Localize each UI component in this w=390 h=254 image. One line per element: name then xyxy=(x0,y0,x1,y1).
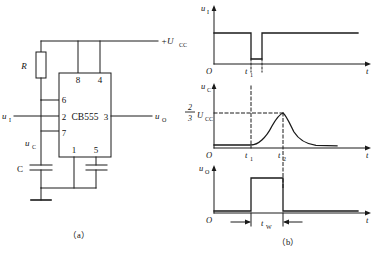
output-label-text: u xyxy=(155,111,160,121)
pulse-width-label: t W xyxy=(261,218,272,230)
subcaption-b: （b） xyxy=(277,237,299,247)
threshold-numerator: 2 xyxy=(188,103,192,112)
circuit-and-waveform-figure: R C +U CC u I u O u C CB555 8 4 6 2 7 3 … xyxy=(0,0,390,254)
pin-label-6: 6 xyxy=(62,95,67,105)
output-label: u O xyxy=(155,111,167,123)
pin-label-3: 3 xyxy=(104,112,109,122)
trigger-y-axis-label: u I xyxy=(201,3,209,15)
capacitor-y-arrowhead xyxy=(212,83,217,89)
pin-label-4: 4 xyxy=(98,75,103,85)
trigger-y-label-sub: I xyxy=(207,9,209,15)
output-y-label-sub: O xyxy=(205,169,210,175)
subcaption-a: （a） xyxy=(68,230,90,240)
cap-node-label-sub: C xyxy=(32,144,36,150)
input-label-text: u xyxy=(2,111,7,121)
capacitor-y-label-sub: C xyxy=(207,87,211,93)
output-trace xyxy=(214,178,358,211)
output-label-sub: O xyxy=(162,117,167,123)
resistor-label: R xyxy=(20,61,27,71)
capacitor-origin-label: O xyxy=(206,150,212,160)
supply-label-text: +U xyxy=(161,36,174,46)
capacitor-tick-t2-sub: 2 xyxy=(283,156,286,162)
capacitor-tick-t1-sub: 1 xyxy=(250,156,253,162)
trigger-trace xyxy=(214,33,358,59)
capacitor-label: C xyxy=(17,164,23,174)
trigger-tick-t1: t 1 xyxy=(245,66,253,78)
trigger-tick-t1-sub: 1 xyxy=(250,72,253,78)
output-y-label-text: u xyxy=(199,163,203,173)
pin-label-2: 2 xyxy=(62,112,67,122)
capacitor-tick-t2: t 2 xyxy=(278,150,286,162)
pulse-width-label-sub: W xyxy=(266,224,272,230)
threshold-label-sub: CC xyxy=(205,116,213,122)
capacitor-x-label: t xyxy=(366,150,369,160)
trigger-x-label: t xyxy=(366,66,369,76)
trigger-tick-t1-text: t xyxy=(245,66,248,76)
output-y-axis-label: u O xyxy=(199,163,210,175)
pin-label-7: 7 xyxy=(62,128,67,138)
pin-label-5: 5 xyxy=(94,145,99,155)
threshold-annotation: 2 3 U CC xyxy=(185,103,213,123)
pulse-width-label-text: t xyxy=(261,218,264,228)
waveform-output xyxy=(212,165,371,226)
output-origin-label: O xyxy=(206,215,212,225)
output-x-label: t xyxy=(366,215,369,225)
chip-name-label: CB555 xyxy=(72,112,99,122)
input-label-sub: I xyxy=(9,117,11,123)
resistor-body xyxy=(36,52,46,78)
threshold-label-text: U xyxy=(197,110,204,120)
capacitor-tick-t2-text: t xyxy=(278,150,281,160)
supply-label-sub: CC xyxy=(179,42,187,48)
pin-label-8: 8 xyxy=(76,75,81,85)
threshold-denominator: 3 xyxy=(187,114,192,123)
trigger-y-label-text: u xyxy=(201,3,205,13)
capacitor-tick-t1: t 1 xyxy=(245,150,253,162)
output-y-arrowhead xyxy=(212,165,217,171)
waveform-capacitor xyxy=(212,83,371,188)
pin-label-1: 1 xyxy=(72,145,77,155)
capacitor-trace xyxy=(214,113,337,146)
capacitor-node-label: u C xyxy=(25,138,36,150)
tw-arrow-right-head xyxy=(283,220,289,225)
cap-node-label-text: u xyxy=(25,138,30,148)
waveform-trigger xyxy=(212,5,371,72)
figure-container: R C +U CC u I u O u C CB555 8 4 6 2 7 3 … xyxy=(0,0,390,254)
capacitor-y-axis-label: u C xyxy=(201,81,211,93)
tw-arrow-left-head xyxy=(245,220,251,225)
trigger-y-arrowhead xyxy=(212,5,217,11)
trigger-origin-label: O xyxy=(206,66,212,76)
capacitor-tick-t1-text: t xyxy=(245,150,248,160)
supply-label: +U CC xyxy=(161,36,187,48)
capacitor-y-label-text: u xyxy=(201,81,205,91)
input-label: u I xyxy=(2,111,11,123)
